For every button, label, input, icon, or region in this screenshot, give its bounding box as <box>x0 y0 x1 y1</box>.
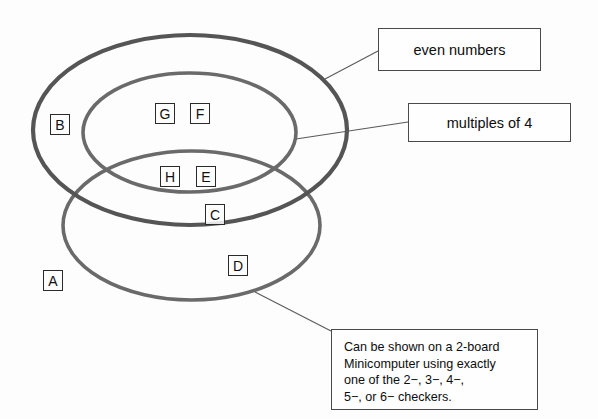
element-label-c[interactable]: C <box>205 204 225 225</box>
element-label-h[interactable]: H <box>160 166 180 187</box>
leader-line-multiples-of-4 <box>296 122 408 139</box>
ellipse-multiples-of-4[interactable] <box>83 73 296 192</box>
venn-diagram-canvas: A B C D E F G H even numbers multiples o… <box>0 0 598 419</box>
element-label-b[interactable]: B <box>50 114 70 135</box>
callout-even-numbers[interactable]: even numbers <box>378 28 541 71</box>
element-label-d[interactable]: D <box>228 255 248 276</box>
element-label-a[interactable]: A <box>43 270 63 291</box>
element-label-e[interactable]: E <box>196 166 216 187</box>
leader-line-even-numbers <box>325 51 378 79</box>
ellipse-even-numbers[interactable] <box>33 35 347 225</box>
leader-line-minicomputer <box>255 292 331 331</box>
element-label-f[interactable]: F <box>190 103 210 124</box>
callout-multiples-of-4[interactable]: multiples of 4 <box>408 103 571 142</box>
element-label-g[interactable]: G <box>155 103 175 124</box>
callout-minicomputer[interactable]: Can be shown on a 2-board Minicomputer u… <box>331 329 538 410</box>
